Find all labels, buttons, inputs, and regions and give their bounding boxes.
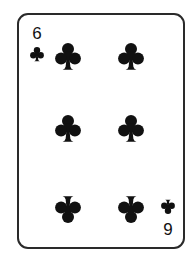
corner-rank-top-left: 6 (29, 25, 45, 42)
playing-card-six-of-clubs[interactable]: 6 6 (17, 13, 185, 249)
club-icon (160, 199, 176, 215)
club-icon (53, 41, 83, 71)
club-icon (116, 195, 146, 225)
club-icon (116, 113, 146, 143)
corner-rank-bottom-right: 6 (160, 220, 176, 237)
club-icon (53, 113, 83, 143)
club-icon (53, 195, 83, 225)
club-icon (29, 46, 45, 62)
club-icon (116, 41, 146, 71)
